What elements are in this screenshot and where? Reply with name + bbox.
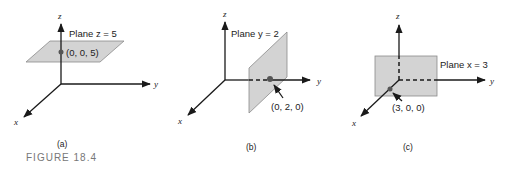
y-axis-label: y xyxy=(316,76,321,86)
panel-a: z y x Plane z = 5 (0, 0, 5) (a) FIGURE 1… xyxy=(13,11,158,163)
panel-caption: (a) xyxy=(57,139,68,149)
plane-label: Plane z = 5 xyxy=(69,28,117,39)
figure-18-4: z y x Plane z = 5 (0, 0, 5) (a) FIGURE 1… xyxy=(0,0,506,173)
point-marker xyxy=(59,50,64,55)
panel-b: z y x Plane y = 2 (0, 2, 0) (b) xyxy=(177,9,321,152)
point-marker xyxy=(267,76,273,82)
plane-label: Plane x = 3 xyxy=(440,59,488,70)
x-axis xyxy=(188,80,225,115)
point-label: (0, 0, 5) xyxy=(66,47,99,58)
x-axis-label: x xyxy=(351,118,356,128)
x-axis-label: x xyxy=(13,117,18,127)
pointer-arrow xyxy=(274,85,283,98)
point-label: (3, 0, 0) xyxy=(392,102,425,113)
plane-label: Plane y = 2 xyxy=(231,28,279,39)
x-axis-label: x xyxy=(177,116,182,126)
figure-title: FIGURE 18.4 xyxy=(26,152,97,163)
y-axis-label: y xyxy=(153,79,158,89)
plane-x-3 xyxy=(375,56,437,96)
point-marker xyxy=(388,87,393,92)
z-axis-label: z xyxy=(395,11,400,21)
z-axis-label: z xyxy=(57,11,62,21)
x-axis xyxy=(24,84,61,117)
panel-caption: (b) xyxy=(246,142,257,152)
y-axis-label: y xyxy=(489,76,494,86)
panel-caption: (c) xyxy=(403,142,413,152)
panel-c: z y x Plane x = 3 (3, 0, 0) (c) xyxy=(351,11,494,152)
point-label: (0, 2, 0) xyxy=(271,101,304,112)
z-axis-label: z xyxy=(222,9,227,19)
